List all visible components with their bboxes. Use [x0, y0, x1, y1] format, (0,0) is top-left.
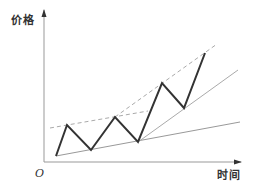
lower-trendline-shallow [56, 122, 240, 156]
x-axis-label: 时间 [217, 166, 241, 182]
y-axis-label: 价格 [11, 11, 35, 27]
series-group [50, 44, 240, 156]
upper-trendline-shallow [50, 111, 148, 128]
price-zigzag [56, 53, 205, 156]
trend-diagram [0, 0, 256, 193]
upper-trendline-steep [115, 44, 217, 117]
origin-label: O [35, 167, 44, 180]
